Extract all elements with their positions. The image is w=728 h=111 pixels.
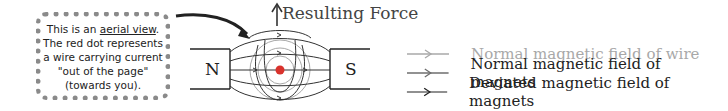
north-pole-label: N bbox=[205, 59, 220, 79]
magnet-field-lines bbox=[230, 31, 330, 101]
wire-dot bbox=[276, 66, 285, 75]
legend: Normal magnetic field of wire Normal mag… bbox=[405, 44, 728, 101]
dark-arrow-line-icon bbox=[405, 67, 451, 79]
black-arrow-line-icon bbox=[405, 86, 449, 98]
legend-label: Deviated magnetic field of magnets bbox=[469, 74, 728, 110]
south-pole-label: S bbox=[345, 59, 357, 79]
legend-item-deviated-field: Deviated magnetic field of magnets bbox=[405, 82, 728, 101]
force-label: Resulting Force bbox=[282, 3, 418, 23]
pointer-arrow-icon bbox=[176, 15, 250, 39]
grey-arrow-line-icon bbox=[405, 48, 451, 60]
force-arrow-icon bbox=[272, 4, 282, 26]
